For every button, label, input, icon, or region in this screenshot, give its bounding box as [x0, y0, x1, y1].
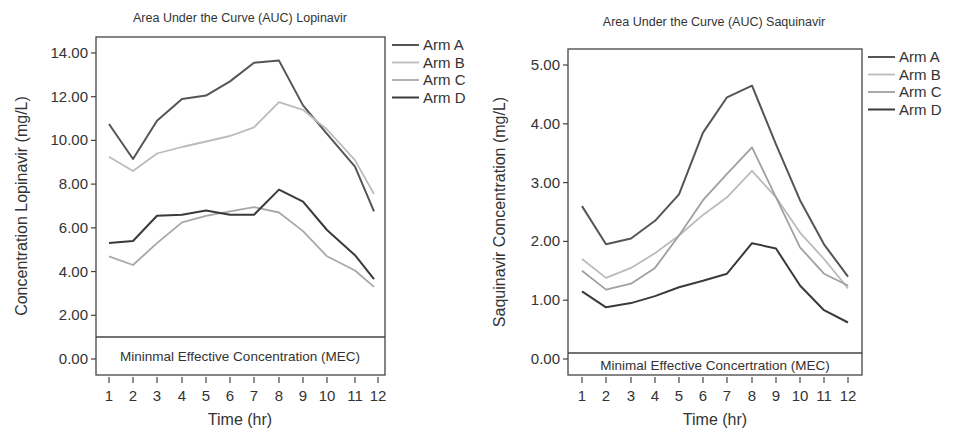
y-axis-label: Concentration Lopinavir (mg/L) [13, 96, 30, 316]
y-tick-label: 12.00 [50, 88, 88, 105]
x-tick-label: 3 [153, 387, 161, 404]
y-axis: 0.001.002.003.004.005.00 [531, 56, 568, 367]
y-tick-label: 1.00 [531, 291, 560, 308]
series-line-arm-a [109, 61, 374, 212]
x-tick-label: 12 [840, 387, 857, 404]
x-tick-label: 12 [370, 387, 387, 404]
mec-label: Minimal Effective Concertration (MEC) [600, 358, 829, 373]
mec-label: Mininmal Effective Concentration (MEC) [120, 349, 360, 364]
series-line-arm-a [582, 86, 848, 277]
x-tick-label: 8 [275, 387, 283, 404]
x-tick-label: 6 [699, 387, 707, 404]
x-tick-label: 11 [347, 387, 363, 404]
x-tick-label: 1 [578, 387, 586, 404]
x-tick-label: 3 [627, 387, 635, 404]
x-tick-label: 5 [202, 387, 210, 404]
plot-frame [96, 37, 385, 375]
x-axis-label: Time (hr) [208, 411, 272, 428]
x-tick-label: 2 [129, 387, 137, 404]
chart-title: Area Under the Curve (AUC) Lopinavir [133, 11, 347, 25]
series-line-arm-d [109, 190, 374, 280]
y-tick-label: 0.00 [59, 350, 88, 367]
legend-label: Arm D [899, 101, 942, 118]
series-lines [109, 61, 374, 287]
plot-frame [568, 49, 862, 375]
series-lines [582, 86, 848, 323]
x-axis-label: Time (hr) [683, 411, 747, 428]
y-tick-label: 14.00 [50, 44, 88, 61]
x-tick-label: 7 [723, 387, 731, 404]
chart-title: Area Under the Curve (AUC) Saquinavir [603, 15, 825, 29]
x-tick-label: 1 [105, 387, 113, 404]
x-tick-label: 4 [178, 387, 186, 404]
y-tick-label: 8.00 [59, 175, 88, 192]
x-tick-label: 6 [226, 387, 234, 404]
legend-label: Arm A [423, 36, 464, 53]
y-tick-label: 0.00 [531, 350, 560, 367]
legend: Arm AArm BArm CArm D [392, 36, 466, 106]
y-tick-label: 10.00 [50, 131, 88, 148]
y-axis: 0.002.004.006.008.0010.0012.0014.00 [50, 44, 96, 367]
series-line-arm-b [582, 171, 848, 289]
series-line-arm-c [582, 147, 848, 289]
x-tick-label: 5 [675, 387, 683, 404]
y-tick-label: 4.00 [59, 263, 88, 280]
x-tick-label: 9 [299, 387, 307, 404]
x-tick-label: 11 [816, 387, 832, 404]
x-tick-label: 8 [748, 387, 756, 404]
legend: Arm AArm BArm CArm D [868, 48, 942, 118]
saquinavir-chart-svg: Area Under the Curve (AUC) Saquinavir Mi… [480, 0, 961, 440]
lopinavir-auc-chart: Area Under the Curve (AUC) Lopinavir Min… [0, 0, 480, 440]
legend-label: Arm A [899, 48, 940, 65]
x-axis: 123456789101112 [105, 377, 387, 404]
y-tick-label: 6.00 [59, 219, 88, 236]
x-tick-label: 4 [651, 387, 659, 404]
legend-label: Arm B [899, 66, 941, 83]
y-tick-label: 2.00 [531, 232, 560, 249]
series-line-arm-b [109, 102, 374, 194]
x-tick-label: 7 [250, 387, 258, 404]
y-axis-label: Saquinavir Concentration (mg/L) [491, 97, 508, 327]
saquinavir-auc-chart: Area Under the Curve (AUC) Saquinavir Mi… [480, 0, 961, 440]
x-tick-label: 2 [602, 387, 610, 404]
lopinavir-chart-svg: Area Under the Curve (AUC) Lopinavir Min… [0, 0, 480, 440]
legend-label: Arm D [423, 89, 466, 106]
legend-label: Arm C [899, 83, 942, 100]
y-tick-label: 5.00 [531, 56, 560, 73]
x-tick-label: 10 [792, 387, 809, 404]
x-axis: 123456789101112 [578, 377, 857, 404]
x-tick-label: 9 [772, 387, 780, 404]
series-line-arm-c [109, 207, 374, 287]
legend-label: Arm B [423, 54, 465, 71]
y-tick-label: 2.00 [59, 306, 88, 323]
x-tick-label: 10 [319, 387, 336, 404]
y-tick-label: 4.00 [531, 115, 560, 132]
y-tick-label: 3.00 [531, 174, 560, 191]
legend-label: Arm C [423, 71, 466, 88]
